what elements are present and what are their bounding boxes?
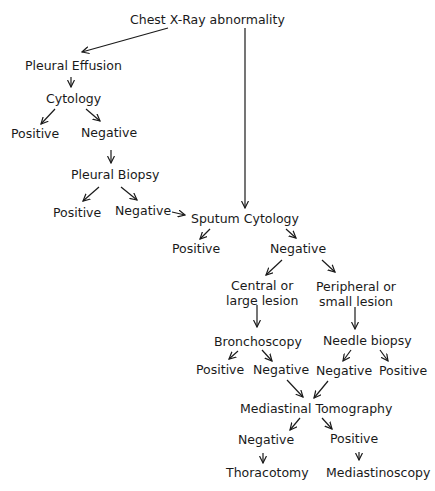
node-bronchoscopy: Bronchoscopy	[214, 334, 302, 349]
node-central-lesion: Central or large lesion	[226, 278, 298, 308]
node-bronch-positive: Positive	[196, 362, 244, 377]
node-needle-negative: Negative	[316, 363, 372, 378]
node-sputum-negative: Negative	[270, 241, 326, 256]
node-needle-positive: Positive	[379, 363, 427, 378]
node-peripheral-lesion: Peripheral or small lesion	[316, 279, 396, 309]
node-cytology-negative: Negative	[81, 125, 137, 140]
node-sputum-cytology: Sputum Cytology	[191, 211, 299, 226]
node-cytology-positive: Positive	[11, 126, 59, 141]
node-biopsy-negative: Negative	[115, 203, 171, 218]
node-bronch-negative: Negative	[253, 362, 309, 377]
peripheral-lesion-line2: small lesion	[316, 294, 396, 309]
node-mediastinoscopy: Mediastinoscopy	[326, 465, 430, 480]
node-mediastinal-tomography: Mediastinal Tomography	[240, 401, 392, 416]
node-sputum-positive: Positive	[172, 241, 220, 256]
peripheral-lesion-line1: Peripheral or	[316, 279, 396, 294]
node-needle-biopsy: Needle biopsy	[323, 333, 412, 348]
node-tomo-positive: Positive	[330, 431, 378, 446]
node-pleural-effusion: Pleural Effusion	[25, 58, 122, 73]
central-lesion-line1: Central or	[226, 278, 298, 293]
node-cytology: Cytology	[46, 91, 101, 106]
node-thoracotomy: Thoracotomy	[226, 465, 309, 480]
node-biopsy-positive: Positive	[53, 205, 101, 220]
node-chest-xray: Chest X-Ray abnormality	[130, 12, 285, 27]
node-tomo-negative: Negative	[238, 432, 294, 447]
flowchart-canvas: Chest X-Ray abnormality Pleural Effusion…	[0, 0, 435, 491]
node-pleural-biopsy: Pleural Biopsy	[71, 167, 159, 182]
central-lesion-line2: large lesion	[226, 293, 298, 308]
